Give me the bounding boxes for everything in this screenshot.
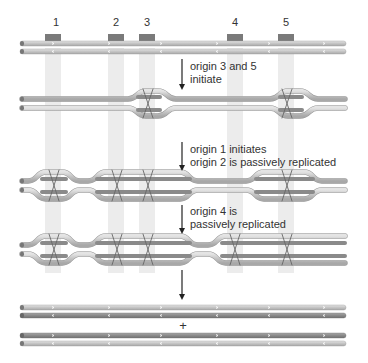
step-1-line-1: origin 3 and 5 <box>190 60 257 73</box>
row-1-parental-dna <box>20 41 346 54</box>
origin-label-3: 3 <box>144 16 150 28</box>
step-3-annotation: origin 4 is passively replicated <box>190 205 286 231</box>
row-4-dna-nearly-replicated <box>20 234 345 265</box>
step-3-line-2: passively replicated <box>190 218 286 231</box>
origin-label-4: 4 <box>232 16 238 28</box>
step-1-line-2: initiate <box>190 73 257 86</box>
step-2-line-2: origin 2 is passively replicated <box>190 156 336 169</box>
origin-label-2: 2 <box>113 16 119 28</box>
step-2-annotation: origin 1 initiates origin 2 is passively… <box>190 143 336 169</box>
replication-diagram <box>0 0 368 363</box>
origin-label-5: 5 <box>283 16 289 28</box>
result-plus-sign: + <box>179 318 187 333</box>
origin-label-1: 1 <box>53 16 59 28</box>
step-2-line-1: origin 1 initiates <box>190 143 336 156</box>
row-3-dna-bubbles <box>20 170 345 201</box>
row-2-dna-bubbles <box>20 89 345 118</box>
origin-markers <box>45 34 294 41</box>
step-1-annotation: origin 3 and 5 initiate <box>190 60 257 86</box>
step-3-line-1: origin 4 is <box>190 205 286 218</box>
